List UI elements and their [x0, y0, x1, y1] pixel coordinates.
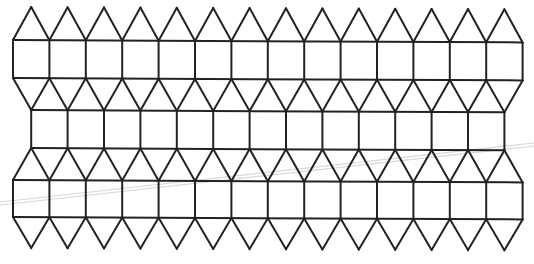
connector-triangle-edge — [159, 149, 177, 181]
connector-triangle-edge — [504, 80, 522, 112]
bottom-cap-triangle-edge — [322, 219, 340, 250]
top-cap-triangle-edge — [468, 9, 486, 42]
top-cap-triangle-edge — [322, 9, 340, 42]
bottom-cap-triangle-edge — [177, 218, 195, 249]
connector-triangle-edge — [504, 150, 522, 182]
connector-triangle-edge — [486, 150, 504, 182]
top-cap-triangle-edge — [395, 9, 413, 42]
connector-triangle-edge — [468, 150, 486, 182]
bottom-cap-triangle-edge — [213, 218, 231, 249]
connector-triangle-edge — [86, 78, 104, 110]
net-edges — [13, 7, 523, 250]
bottom-cap-triangle-edge — [413, 219, 431, 250]
bottom-cap-triangle-edge — [86, 217, 104, 248]
connector-triangle-edge — [413, 80, 431, 112]
connector-triangle-edge — [177, 149, 195, 181]
connector-triangle-edge — [250, 79, 268, 111]
connector-triangle-edge — [122, 149, 140, 181]
connector-triangle-edge — [86, 148, 104, 180]
top-cap-triangle-edge — [159, 8, 177, 41]
top-cap-triangle-edge — [504, 9, 522, 42]
connector-triangle-edge — [213, 149, 231, 181]
connector-triangle-edge — [304, 79, 322, 111]
connector-triangle-edge — [122, 79, 140, 111]
bottom-cap-triangle-edge — [504, 219, 522, 250]
connector-triangle-edge — [468, 80, 486, 112]
bottom-cap-triangle-edge — [450, 219, 468, 250]
top-cap-triangle-edge — [286, 8, 304, 41]
top-cap-triangle-edge — [86, 7, 104, 40]
top-cap-triangle-edge — [304, 9, 322, 42]
connector-triangle-edge — [140, 79, 158, 111]
connector-triangle-edge — [104, 79, 122, 111]
top-cap-triangle-edge — [377, 9, 395, 42]
connector-triangle-edge — [377, 150, 395, 182]
connector-triangle-edge — [304, 150, 322, 182]
top-cap-triangle-edge — [195, 8, 213, 41]
connector-triangle-edge — [13, 78, 31, 110]
top-cap-triangle-edge — [122, 8, 140, 41]
connector-triangle-edge — [104, 148, 122, 180]
connector-triangle-edge — [268, 149, 286, 181]
connector-triangle-edge — [395, 150, 413, 182]
connector-triangle-edge — [231, 79, 249, 111]
top-cap-triangle-edge — [341, 9, 359, 42]
top-cap-triangle-edge — [213, 8, 231, 41]
connector-triangle-edge — [195, 79, 213, 111]
top-cap-triangle-edge — [104, 7, 122, 40]
top-cap-triangle-edge — [140, 8, 158, 41]
bottom-cap-triangle-edge — [49, 217, 67, 248]
top-cap-triangle-edge — [413, 9, 431, 42]
bottom-cap-triangle-edge — [486, 219, 504, 250]
top-cap-triangle-edge — [268, 8, 286, 41]
top-cap-triangle-edge — [450, 9, 468, 42]
bottom-cap-triangle-edge — [31, 217, 49, 248]
top-cap-triangle-edge — [177, 8, 195, 41]
top-cap-triangle-edge — [231, 8, 249, 41]
connector-triangle-edge — [140, 149, 158, 181]
connector-triangle-edge — [31, 78, 49, 110]
top-cap-triangle-edge — [13, 7, 31, 40]
bottom-cap-triangle-edge — [395, 219, 413, 250]
connector-triangle-edge — [286, 149, 304, 181]
bottom-cap-triangle-edge — [250, 218, 268, 249]
connector-triangle-edge — [359, 80, 377, 112]
bottom-cap-triangle-edge — [195, 218, 213, 249]
bottom-cap-triangle-edge — [13, 217, 31, 248]
connector-triangle-edge — [13, 148, 31, 180]
connector-triangle-edge — [450, 80, 468, 112]
connector-triangle-edge — [432, 80, 450, 112]
connector-triangle-edge — [31, 148, 49, 180]
connector-triangle-edge — [341, 80, 359, 112]
connector-triangle-edge — [49, 78, 67, 110]
connector-triangle-edge — [286, 79, 304, 111]
bottom-cap-triangle-edge — [359, 219, 377, 250]
top-cap-triangle-edge — [68, 7, 86, 40]
connector-triangle-edge — [268, 79, 286, 111]
bottom-cap-triangle-edge — [104, 218, 122, 249]
bottom-cap-triangle-edge — [377, 219, 395, 250]
connector-triangle-edge — [213, 79, 231, 111]
top-cap-triangle-edge — [49, 7, 67, 40]
connector-triangle-edge — [195, 149, 213, 181]
bottom-cap-triangle-edge — [122, 218, 140, 249]
top-cap-triangle-edge — [432, 9, 450, 42]
connector-triangle-edge — [177, 79, 195, 111]
bottom-cap-triangle-edge — [231, 218, 249, 249]
connector-triangle-edge — [377, 80, 395, 112]
bottom-cap-triangle-edge — [140, 218, 158, 249]
connector-triangle-edge — [395, 80, 413, 112]
connector-triangle-edge — [49, 148, 67, 180]
connector-triangle-edge — [159, 79, 177, 111]
bottom-cap-triangle-edge — [68, 217, 86, 248]
bottom-cap-triangle-edge — [286, 218, 304, 249]
top-cap-triangle-edge — [250, 8, 268, 41]
top-cap-triangle-edge — [31, 7, 49, 40]
connector-triangle-edge — [231, 149, 249, 181]
polyhedron-net-diagram — [0, 0, 534, 264]
top-cap-triangle-edge — [486, 9, 504, 42]
bottom-cap-triangle-edge — [468, 219, 486, 250]
connector-triangle-edge — [68, 78, 86, 110]
connector-triangle-edge — [432, 150, 450, 182]
connector-triangle-edge — [68, 148, 86, 180]
